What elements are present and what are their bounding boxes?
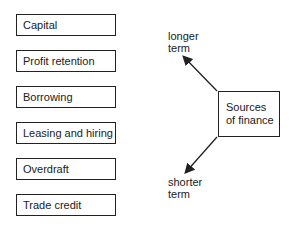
label-line: shorter bbox=[168, 176, 202, 188]
label-line: term bbox=[168, 42, 199, 54]
center-line: Sources bbox=[226, 101, 279, 114]
longer-term-label: longer term bbox=[168, 30, 199, 54]
label-line: term bbox=[168, 188, 202, 200]
sources-of-finance-box: Sources of finance bbox=[218, 91, 280, 137]
center-line: of finance bbox=[226, 114, 279, 127]
longer-term-arrow-icon bbox=[184, 57, 217, 91]
shorter-term-label: shorter term bbox=[168, 176, 202, 200]
label-line: longer bbox=[168, 30, 199, 42]
shorter-term-arrow-icon bbox=[186, 137, 217, 172]
